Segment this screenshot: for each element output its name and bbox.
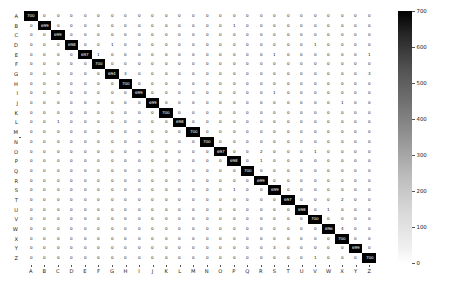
heatmap-cell: 0 [38, 127, 52, 137]
heatmap-cell: 0 [38, 195, 52, 205]
heatmap-cell: 0 [268, 98, 282, 108]
heatmap-cell-value: 0 [233, 33, 236, 37]
heatmap-cell-value: 0 [192, 62, 195, 66]
heatmap-cell: 0 [254, 40, 268, 50]
heatmap-cell-value: 0 [300, 14, 303, 18]
heatmap-cell: 0 [173, 234, 187, 244]
heatmap-cell-value: 0 [327, 246, 330, 250]
heatmap-cell-value: 0 [287, 149, 290, 153]
x-axis-tick-label: V [308, 265, 322, 277]
heatmap-cell: 0 [227, 234, 241, 244]
heatmap-cell: 0 [51, 11, 65, 21]
heatmap-cell: 0 [78, 118, 92, 128]
heatmap-cell: 0 [65, 195, 79, 205]
heatmap-cell: 0 [214, 215, 228, 225]
heatmap-cell: 1 [308, 147, 322, 157]
heatmap-cell: 0 [173, 40, 187, 50]
heatmap-cell-value: 0 [206, 246, 209, 250]
heatmap-cell: 0 [159, 215, 173, 225]
heatmap-cell: 699 [146, 98, 160, 108]
heatmap-cell: 0 [92, 185, 106, 195]
heatmap-cell: 0 [132, 195, 146, 205]
heatmap-cell-value: 0 [192, 23, 195, 27]
heatmap-cell: 0 [65, 224, 79, 234]
heatmap-cell: 0 [227, 195, 241, 205]
heatmap-cell-value: 0 [219, 246, 222, 250]
heatmap-cell-value: 0 [70, 246, 73, 250]
heatmap-cell-value: 0 [206, 159, 209, 163]
y-axis-tick-label: D [0, 40, 22, 50]
heatmap-cell-value: 0 [287, 53, 290, 57]
x-axis-tick-mark [261, 265, 262, 267]
heatmap-cell-value: 2 [341, 198, 344, 202]
heatmap-cell-value: 0 [97, 208, 100, 212]
heatmap-cell-value: 0 [260, 246, 263, 250]
heatmap-cell-value: 0 [97, 256, 100, 260]
heatmap-cell-value: 0 [246, 53, 249, 57]
heatmap-cell: 0 [51, 69, 65, 79]
y-axis-tick-label: I [0, 89, 22, 99]
heatmap-cell: 698 [65, 40, 79, 50]
heatmap-cell-value: 0 [30, 91, 33, 95]
heatmap-cell-value: 0 [300, 130, 303, 134]
heatmap-cell-value: 0 [192, 82, 195, 86]
heatmap-cell-value: 0 [206, 23, 209, 27]
heatmap-cell: 0 [335, 156, 349, 166]
heatmap-cell-value: 0 [327, 101, 330, 105]
heatmap-cell: 0 [105, 21, 119, 31]
heatmap-cell-value: 0 [327, 33, 330, 37]
heatmap-cell-value: 0 [233, 149, 236, 153]
heatmap-cell-value: 0 [219, 82, 222, 86]
heatmap-cell: 1 [335, 98, 349, 108]
y-axis-tick-label: M [0, 127, 22, 137]
heatmap-cell-value: 0 [57, 91, 60, 95]
heatmap-cell-value: 0 [178, 72, 181, 76]
heatmap-cell-value: 0 [300, 120, 303, 124]
heatmap-cell: 0 [254, 253, 268, 263]
heatmap-cell: 0 [349, 11, 363, 21]
heatmap-cell: 0 [362, 244, 376, 254]
heatmap-cell-value: 0 [219, 159, 222, 163]
heatmap-cell: 0 [105, 253, 119, 263]
heatmap-cell-value: 0 [111, 246, 114, 250]
heatmap-cell: 0 [51, 50, 65, 60]
heatmap-cell: 0 [159, 30, 173, 40]
heatmap-cell: 0 [186, 195, 200, 205]
heatmap-cell: 0 [241, 11, 255, 21]
heatmap-cell: 0 [65, 205, 79, 215]
heatmap-cell-value: 0 [206, 62, 209, 66]
heatmap-cell: 0 [119, 176, 133, 186]
heatmap-cell-value: 0 [30, 208, 33, 212]
heatmap-cell: 0 [349, 185, 363, 195]
heatmap-cell-value: 694 [108, 72, 115, 76]
heatmap-cell-value: 0 [84, 188, 87, 192]
heatmap-cell: 0 [38, 118, 52, 128]
heatmap-cell-value: 0 [233, 179, 236, 183]
heatmap-cell-value: 0 [57, 198, 60, 202]
x-axis-tick-mark [234, 265, 235, 267]
colorbar-tick-mark [412, 155, 415, 156]
heatmap-cell: 0 [281, 89, 295, 99]
heatmap-cell: 0 [214, 11, 228, 21]
heatmap-cell-value: 0 [165, 169, 168, 173]
heatmap-cell-value: 0 [260, 111, 263, 115]
heatmap-cell-value: 0 [124, 227, 127, 231]
heatmap-cell: 0 [227, 176, 241, 186]
heatmap-cell-value: 0 [300, 140, 303, 144]
heatmap-cell: 0 [132, 98, 146, 108]
heatmap-cell-value: 0 [192, 120, 195, 124]
heatmap-cell-value: 0 [97, 91, 100, 95]
heatmap-cell-value: 0 [327, 62, 330, 66]
y-axis-tick-mark [19, 137, 21, 138]
heatmap-cell-value: 1 [57, 120, 60, 124]
x-axis-tick-mark [193, 265, 194, 267]
heatmap-cell-value: 700 [27, 14, 34, 18]
heatmap-cell: 0 [254, 127, 268, 137]
heatmap-cell: 0 [51, 166, 65, 176]
heatmap-cell: 0 [281, 147, 295, 157]
heatmap-cell-value: 0 [206, 179, 209, 183]
heatmap-cell: 0 [322, 176, 336, 186]
heatmap-cell: 0 [254, 69, 268, 79]
heatmap-cell: 0 [186, 205, 200, 215]
heatmap-cell: 0 [268, 30, 282, 40]
